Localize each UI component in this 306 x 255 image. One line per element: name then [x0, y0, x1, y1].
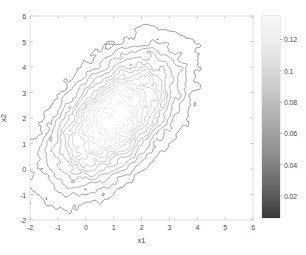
- contour-path: [105, 43, 113, 49]
- y-tick-label: 0: [22, 166, 26, 173]
- contour-path: [50, 137, 53, 141]
- y-tick-label: -1: [20, 191, 26, 198]
- y-tick-label: -2: [20, 217, 26, 224]
- x-tick-label: -2: [27, 224, 33, 231]
- y-tick-label: 2: [22, 115, 26, 122]
- contour-path: [151, 83, 153, 86]
- contour-path: [124, 124, 125, 126]
- contour-path: [96, 93, 132, 143]
- axes-frame: [30, 16, 253, 220]
- colorbar: [262, 16, 280, 218]
- x-tick-label: 3: [168, 224, 172, 231]
- colorbar-tick-label: 0.1: [284, 67, 293, 74]
- colorbar-tick-label: 0.02: [284, 193, 297, 200]
- contour-path: [121, 101, 124, 104]
- contour-path: [194, 102, 196, 106]
- axis-tick-marks: [30, 16, 253, 220]
- colorbar-tick-label: 0.12: [284, 36, 297, 43]
- y-tick-label: 6: [22, 13, 26, 20]
- colorbar-tick-label: 0.04: [284, 161, 297, 168]
- x-tick-label: 4: [195, 224, 199, 231]
- y-axis-title: x2: [0, 114, 8, 122]
- colorbar-tick-marks: [280, 39, 283, 196]
- contour-path: [124, 87, 128, 91]
- contour-path: [72, 181, 75, 183]
- contour-path: [99, 132, 101, 134]
- contour-plot-figure: -2-10123456 -2-10123456 0.120.10.080.060…: [0, 0, 306, 255]
- contour-path: [83, 133, 84, 134]
- contour-lines: [30, 24, 201, 213]
- contour-path: [145, 105, 146, 107]
- contour-path: [102, 193, 104, 195]
- y-tick-label: 1: [22, 140, 26, 147]
- colorbar-tick-label: 0.06: [284, 130, 297, 137]
- contour-path: [92, 130, 93, 132]
- contour-path: [46, 198, 47, 200]
- contour-path: [45, 48, 183, 189]
- colorbar-tick-label: 0.08: [284, 99, 297, 106]
- plot-canvas: [0, 0, 306, 255]
- contour-path: [59, 62, 167, 177]
- contour-path: [84, 189, 86, 190]
- x-tick-label: 5: [223, 224, 227, 231]
- contour-path: [41, 168, 43, 169]
- contour-path: [72, 75, 158, 160]
- y-tick-label: 3: [22, 89, 26, 96]
- colorbar-gradient: [262, 16, 280, 218]
- contour-path: [130, 64, 132, 65]
- contour-path: [132, 88, 133, 90]
- contour-path: [30, 24, 201, 213]
- contour-path: [30, 171, 35, 180]
- y-tick-label: 5: [22, 38, 26, 45]
- x-tick-label: 6: [251, 224, 255, 231]
- x-tick-label: 1: [112, 224, 116, 231]
- y-tick-label: 4: [22, 64, 26, 71]
- x-axis-title: x1: [138, 237, 146, 245]
- x-tick-label: -1: [55, 224, 61, 231]
- x-tick-label: 2: [140, 224, 144, 231]
- x-tick-label: 0: [84, 224, 88, 231]
